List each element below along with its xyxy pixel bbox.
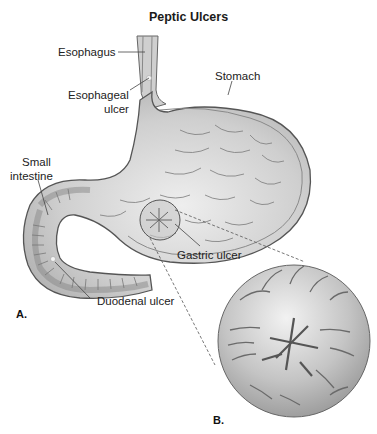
label-esophagus: Esophagus [58,46,116,59]
magnified-ulcer-view [218,265,370,417]
label-gastric-ulcer: Gastric ulcer [177,249,242,262]
label-small-intestine-line1: Small [22,156,51,169]
panel-label-a: A. [16,308,27,320]
duodenal-ulcer-spot [51,257,56,262]
label-stomach: Stomach [215,70,260,83]
label-duodenal-ulcer: Duodenal ulcer [97,295,174,308]
label-esophageal-ulcer-line1: Esophageal [68,89,129,102]
label-esophageal-ulcer-line2: ulcer [104,103,129,116]
panel-label-b: B. [213,414,224,426]
label-small-intestine-line2: intestine [10,170,53,183]
stomach-illustration [0,0,377,434]
stomach-body [23,92,310,298]
